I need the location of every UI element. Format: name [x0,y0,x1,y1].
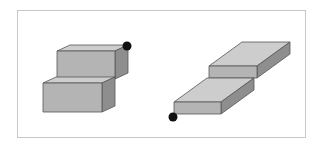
upper-slab-front-face [209,66,257,78]
corner-marker-dot [123,42,132,51]
lower-slab [174,78,254,114]
upper-box-front-face [57,51,115,79]
lower-box-front-face [43,83,102,112]
offset-slabs-figure [169,42,291,122]
lower-box [43,77,115,112]
corner-marker-dot [169,113,178,122]
upper-box [57,45,128,79]
stepped-stack-figure [43,42,132,113]
lower-slab-front-face [174,102,221,114]
diagram-canvas [0,0,324,146]
upper-slab [209,42,290,78]
lower-box-side-face [102,77,115,112]
